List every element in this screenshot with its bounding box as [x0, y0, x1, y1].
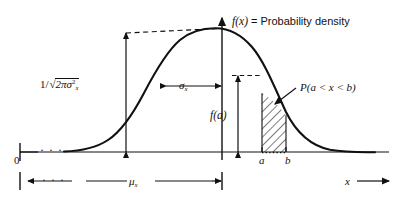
origin-label: 0 [14, 155, 20, 166]
ellipsis-lower: · · · [42, 174, 65, 186]
mu-subscript-text: x [135, 181, 138, 188]
peak-dashed-line [126, 28, 221, 33]
legend-label: f(x) = Probability density [232, 16, 350, 28]
legend-equation-text: = Probability density [248, 15, 350, 27]
legend-fx-text: f(x) [232, 15, 248, 27]
tick-label-b: b [285, 155, 291, 166]
peak-radical-inner-text: 2πσ [56, 78, 72, 90]
square-root-icon: √2πσ2x [49, 78, 80, 92]
peak-height-label: 1/√2πσ2x [40, 78, 79, 92]
sigma-subscript-text: x [184, 85, 187, 92]
probability-label: P(a < x < b) [300, 82, 356, 93]
sigma-x-label: σx [179, 80, 187, 93]
peak-subscript-text: x [75, 84, 78, 91]
peak-prefix-text: 1/ [40, 78, 49, 90]
ellipsis-upper: · · · [40, 144, 63, 156]
x-axis-label: x [345, 176, 350, 187]
mean-label: μx [129, 176, 138, 189]
tick-label-a: a [259, 155, 265, 166]
probability-density-figure: f(x) = Probability density 1/√2πσ2x σx f… [0, 0, 399, 207]
fa-label: f(a) [210, 110, 227, 122]
